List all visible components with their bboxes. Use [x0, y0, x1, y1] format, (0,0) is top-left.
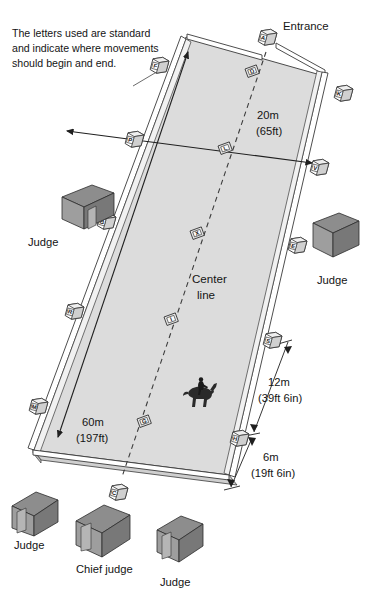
marker-C[interactable]: C: [109, 482, 129, 503]
length-dimension-imperial: (197ft): [76, 431, 108, 445]
booth-chief-judge[interactable]: [76, 505, 130, 557]
offset-short-dimension-imperial: (19ft 6in): [251, 466, 295, 480]
center-line-label-line2: line: [197, 288, 215, 303]
marker-V[interactable]: V: [310, 157, 330, 178]
booth-judge-bottom-right[interactable]: [157, 516, 203, 562]
booth-label-judge-bottom-right: Judge: [160, 575, 190, 589]
marker-A[interactable]: A: [258, 27, 278, 48]
center-line-label-line1: Center: [192, 272, 227, 287]
length-dimension-metric: 60m: [82, 415, 104, 429]
marker-E[interactable]: E: [288, 235, 308, 256]
dressage-arena-diagram: A K V: [0, 0, 366, 595]
width-dimension-imperial: (65ft): [256, 124, 282, 138]
booth-judge-right[interactable]: [313, 213, 359, 257]
width-dimension-metric: 20m: [257, 108, 279, 122]
marker-K[interactable]: K: [334, 83, 354, 104]
offset-long-dimension-metric: 12m: [268, 375, 290, 389]
booth-label-judge-right: Judge: [317, 273, 347, 287]
diagram-canvas: A K V: [0, 0, 366, 595]
booth-judge-bottom-left[interactable]: [12, 492, 58, 536]
booth-label-chief-judge: Chief judge: [76, 562, 133, 576]
booth-label-judge-bottom-left: Judge: [14, 538, 44, 552]
offset-short-dimension-metric: 6m: [263, 450, 279, 464]
offset-long-dimension-imperial: (39ft 6in): [258, 391, 302, 405]
legend-note: The letters used are standard and indica…: [12, 26, 164, 71]
entrance-label: Entrance: [283, 19, 329, 34]
booth-label-judge-left: Judge: [28, 235, 58, 249]
